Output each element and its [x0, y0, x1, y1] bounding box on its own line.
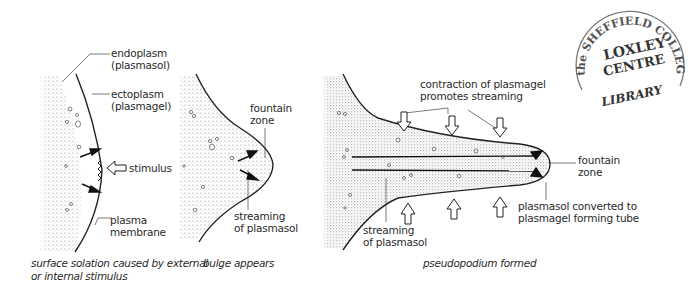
stimulus-arrow-icon — [107, 161, 126, 175]
label-plasmasol-converted: plasmasol converted to — [518, 200, 637, 212]
label-ectoplasm: ectoplasm — [111, 88, 164, 100]
stamp-bottom: LIBRARY — [599, 82, 665, 106]
label-fountain: fountain — [250, 102, 292, 114]
caption-pseudopodium-formed: pseudopodium formed — [423, 257, 536, 270]
label-streaming-3: streaming — [363, 224, 414, 236]
label-fountain-zone-3: fountain — [578, 154, 620, 166]
label-endoplasm: endoplasm — [111, 47, 167, 59]
caption-bulge-appears: bulge appears — [203, 257, 274, 270]
label-of-plasmasol-3: of plasmasol — [363, 236, 427, 248]
caption-surface-solation: surface solation caused by external — [31, 257, 208, 270]
streaming-arrows — [80, 149, 100, 192]
label-plasmagel-tube: plasmagel forming tube — [518, 212, 639, 224]
label-endoplasm-alt: (plasmasol) — [111, 59, 170, 71]
label-membrane: membrane — [110, 226, 166, 238]
label-zone: zone — [250, 114, 274, 126]
label-zone-3: zone — [578, 166, 602, 178]
caption-surface-solation-2: or internal stimulus — [31, 270, 127, 283]
label-promotes-streaming: promotes streaming — [420, 90, 523, 102]
label-stimulus: stimulus — [129, 162, 172, 174]
contraction-arrows-bottom — [401, 197, 507, 224]
label-contraction: contraction of plasmagel — [420, 78, 546, 90]
label-of-plasmasol: of plasmasol — [234, 222, 298, 234]
label-ectoplasm-alt: (plasmagel) — [111, 100, 171, 112]
label-plasma: plasma — [110, 214, 147, 226]
library-stamp: the SHEFFIELD COLLEGE LOXLEY CENTRE LIBR… — [572, 2, 688, 106]
label-streaming: streaming — [234, 210, 285, 222]
